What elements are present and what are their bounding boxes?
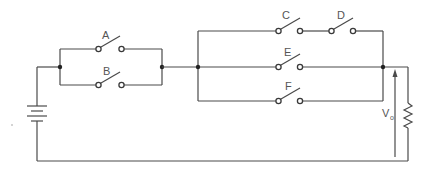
output-voltage-subscript: o	[390, 114, 394, 121]
switch-f-label: F	[285, 80, 292, 92]
resistor	[404, 67, 412, 161]
junction-dot	[196, 65, 200, 69]
switch-b: B	[96, 65, 124, 88]
junction-dot	[58, 65, 62, 69]
circuit-diagram: A B C D	[0, 0, 430, 170]
stray-mark	[11, 124, 12, 125]
parallel-group-1	[60, 49, 162, 85]
switch-e-label: E	[284, 46, 291, 58]
switch-c: C	[276, 9, 303, 34]
switch-e: E	[276, 46, 303, 70]
switch-d-label: D	[337, 9, 345, 21]
switch-b-label: B	[103, 65, 110, 77]
switch-a: A	[96, 29, 124, 52]
switch-c-label: C	[282, 9, 290, 21]
switch-a-label: A	[102, 29, 110, 41]
output-voltage-label: V	[382, 107, 390, 119]
switch-f: F	[276, 80, 303, 104]
output-voltage-arrow	[393, 69, 398, 157]
junction-dot	[381, 65, 385, 69]
switch-d: D	[329, 9, 356, 34]
battery	[27, 67, 47, 161]
